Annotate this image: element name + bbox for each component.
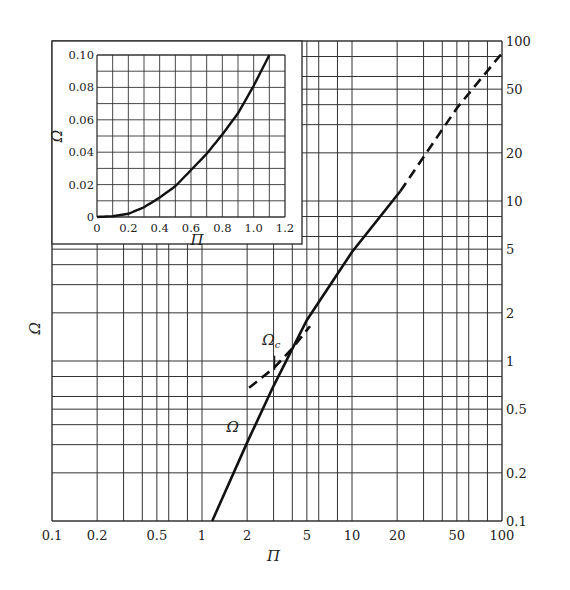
x-tick-label: 0.1 bbox=[42, 528, 63, 543]
series-line bbox=[400, 53, 502, 191]
x-tick-label: 100 bbox=[490, 528, 515, 543]
y-tick-label: 0.5 bbox=[506, 402, 527, 417]
x-axis-label: Π bbox=[266, 547, 281, 565]
inset-x-axis-label: Π bbox=[189, 231, 204, 249]
curve-annotation: Ωc bbox=[261, 331, 280, 350]
inset-y-axis-label: Ω bbox=[48, 130, 66, 143]
x-tick-label: 10 bbox=[344, 528, 361, 543]
x-tick-label: 50 bbox=[449, 528, 466, 543]
y-tick-label: 20 bbox=[506, 146, 523, 161]
chart: ΩΩc 0.10.20.51251020501000.10.20.5125102… bbox=[0, 0, 570, 590]
x-tick-label: 0.2 bbox=[87, 528, 108, 543]
inset-y-tick-label: 0.04 bbox=[68, 145, 94, 159]
inset-x-tick-label: 0 bbox=[93, 221, 100, 235]
y-tick-label: 50 bbox=[506, 82, 523, 97]
inset-x-tick-label: 0.4 bbox=[151, 221, 169, 235]
y-tick-label: 10 bbox=[506, 194, 523, 209]
x-tick-label: 5 bbox=[303, 528, 311, 543]
y-tick-label: 0.1 bbox=[506, 514, 527, 529]
x-tick-label: 2 bbox=[243, 528, 251, 543]
y-tick-label: 1 bbox=[506, 354, 514, 369]
y-tick-label: 100 bbox=[506, 34, 531, 49]
inset-x-tick-label: 1.2 bbox=[276, 221, 294, 235]
inset-chart: 00.20.40.60.81.01.200.020.040.060.080.10… bbox=[48, 41, 302, 249]
inset-y-tick-label: 0.10 bbox=[68, 48, 94, 62]
inset-x-tick-label: 1.0 bbox=[245, 221, 263, 235]
y-tick-label: 5 bbox=[506, 242, 514, 257]
y-tick-label: 0.2 bbox=[506, 466, 527, 481]
y-axis-label: Ω bbox=[26, 322, 44, 335]
inset-y-tick-label: 0 bbox=[87, 210, 94, 224]
inset-y-tick-label: 0.06 bbox=[68, 113, 94, 127]
curve-annotation: Ω bbox=[225, 418, 238, 436]
y-tick-label: 2 bbox=[506, 306, 514, 321]
inset-x-tick-label: 0.8 bbox=[213, 221, 231, 235]
x-tick-label: 20 bbox=[389, 528, 406, 543]
x-tick-label: 1 bbox=[198, 528, 206, 543]
inset-y-tick-label: 0.08 bbox=[68, 80, 94, 94]
x-tick-label: 0.5 bbox=[147, 528, 168, 543]
inset-y-tick-label: 0.02 bbox=[68, 178, 94, 192]
inset-x-tick-label: 0.2 bbox=[119, 221, 137, 235]
series-line bbox=[249, 326, 310, 388]
